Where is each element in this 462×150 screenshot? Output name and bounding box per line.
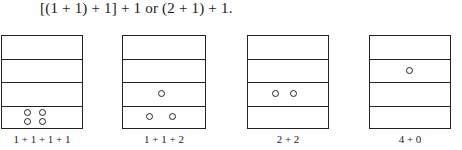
row-divider	[123, 106, 205, 107]
abacus-box-1	[1, 35, 83, 129]
row-divider	[2, 59, 82, 60]
abacus-box-2	[122, 35, 206, 129]
bead-icon	[272, 90, 279, 97]
bead-icon	[39, 118, 46, 125]
equation-text: [(1 + 1) + 1] + 1 or (2 + 1) + 1.	[40, 0, 233, 17]
bead-icon	[158, 90, 165, 97]
row-divider	[370, 106, 450, 107]
bead-icon	[146, 113, 153, 120]
bead-icon	[24, 118, 31, 125]
abacus-box-3	[247, 35, 329, 129]
row-divider	[2, 106, 82, 107]
row-divider	[370, 82, 450, 83]
bead-icon	[169, 113, 176, 120]
bead-icon	[39, 109, 46, 116]
row-divider	[248, 106, 328, 107]
caption-3: 2 + 2	[243, 133, 333, 145]
row-divider	[2, 82, 82, 83]
bead-icon	[290, 90, 297, 97]
row-divider	[123, 59, 205, 60]
bead-icon	[406, 67, 413, 74]
row-divider	[248, 59, 328, 60]
bead-icon	[24, 109, 31, 116]
caption-1: 1 + 1 + 1 + 1	[0, 133, 87, 145]
caption-2: 1 + 1 + 2	[119, 133, 209, 145]
caption-4: 4 + 0	[365, 133, 455, 145]
row-divider	[123, 82, 205, 83]
row-divider	[248, 82, 328, 83]
row-divider	[370, 59, 450, 60]
abacus-box-4	[369, 35, 451, 129]
